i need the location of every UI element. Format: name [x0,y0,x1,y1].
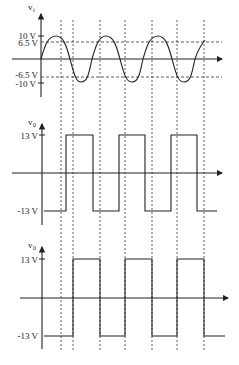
output-waveform-1-panel: v 0 13 V -13 V [12,117,222,225]
tick-neg-13v: -13 V [17,331,38,341]
tick-6.5v: 6.5 V [18,38,38,48]
vertical-guide-lines [61,20,204,352]
vi-axis-subscript: i [33,7,35,13]
tick-neg-13v: -13 V [17,206,38,216]
tick-13v: 13 V [20,131,38,141]
tick-neg-10v: -10 V [15,79,36,89]
output-waveform-2-panel: v 0 13 V -13 V [17,240,228,349]
tick-13v: 13 V [20,255,38,265]
input-waveform-panel: v i 10 V 6.5 V -6.5 V -10 V [12,2,222,97]
schmitt-trigger-waveforms: v i 10 V 6.5 V -6.5 V -10 V v 0 13 V -13… [0,0,239,365]
vo-axis-subscript: 0 [33,122,36,128]
vo-axis-subscript: 0 [33,245,36,251]
